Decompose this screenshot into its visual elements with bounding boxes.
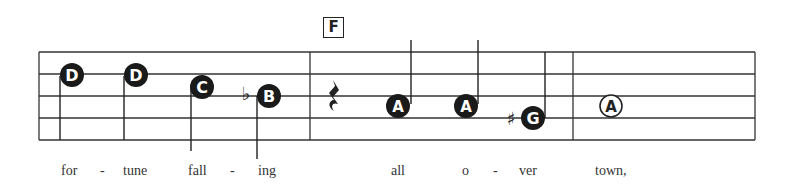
lyric: o [462,163,469,179]
lyric: ing [258,163,276,179]
music-staff: D D C ♭ B A A ♯ G A [0,0,793,190]
flat-icon: ♭ [242,83,251,104]
lyric: fall [188,163,207,179]
note-g-sharp: G [521,106,545,130]
note-a-2: A [454,94,478,118]
svg-text:C: C [196,78,208,97]
lyric-hyphen: - [230,163,235,179]
svg-text:D: D [129,66,142,85]
svg-text:A: A [392,98,404,116]
lyric-hyphen: - [493,163,498,179]
svg-text:A: A [605,98,617,116]
sharp-icon: ♯ [507,108,516,129]
svg-text:B: B [263,87,275,106]
lyric: ver [519,163,537,179]
lyric: town, [595,163,627,179]
rehearsal-mark: F [323,17,344,38]
lyric: tune [123,163,147,179]
lyric: for [61,163,77,179]
svg-text:G: G [526,109,539,128]
note-a-1: A [386,94,410,118]
svg-text:D: D [65,66,78,85]
note-d-1: D [60,63,84,87]
note-b-flat: B [257,84,281,108]
svg-text:A: A [460,98,472,116]
note-d-2: D [124,63,148,87]
note-a-hollow: A [600,95,622,117]
lyric: all [391,163,405,179]
note-c: C [190,75,214,99]
lyric-hyphen: - [100,163,105,179]
